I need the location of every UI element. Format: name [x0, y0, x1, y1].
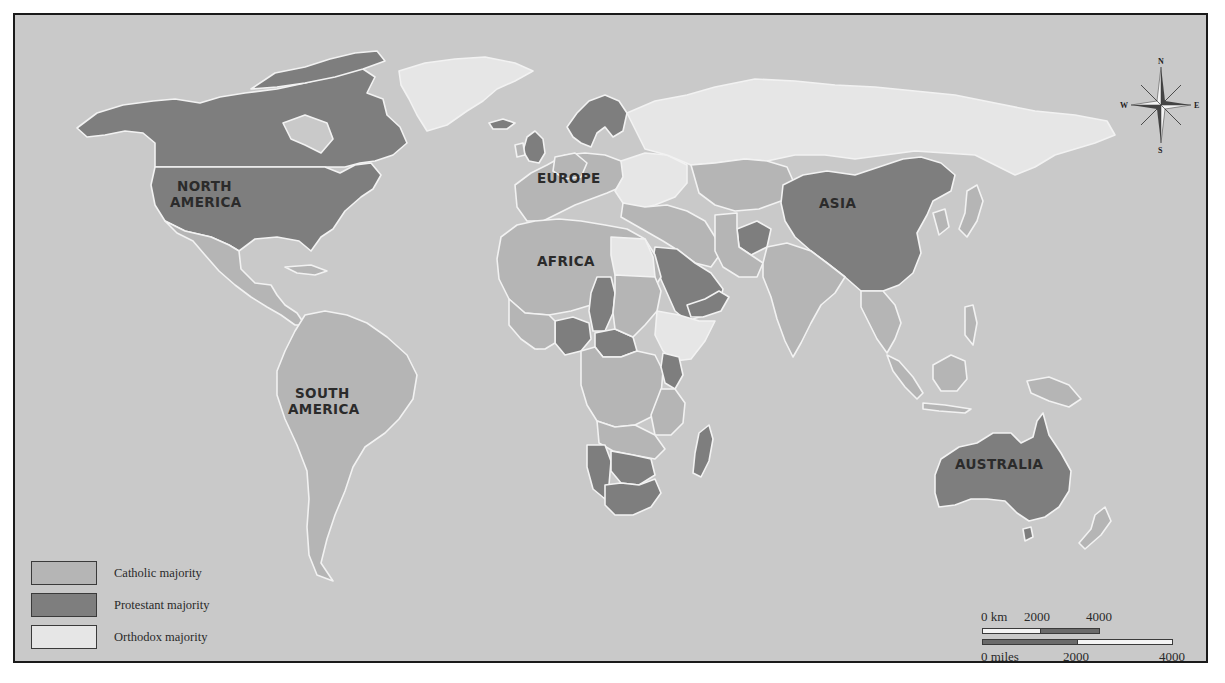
legend-label-protestant: Protestant majority — [114, 598, 209, 613]
region-ireland — [515, 143, 525, 157]
scale-miles-end: 4000 — [1159, 649, 1185, 663]
legend: Catholic majority Protestant majority Or… — [31, 561, 209, 649]
scale-km-label: 0 km — [981, 609, 1007, 625]
legend-label-catholic: Catholic majority — [114, 566, 202, 581]
label-north-america-1: NORTH — [177, 178, 232, 194]
legend-swatch-orthodox — [31, 625, 97, 649]
label-north-america-2: AMERICA — [170, 194, 242, 210]
legend-swatch-protestant — [31, 593, 97, 617]
label-australia: AUSTRALIA — [955, 456, 1044, 472]
scale-bar: 0 km 2000 4000 0 miles 2000 4000 — [981, 609, 1208, 663]
compass-e: E — [1194, 101, 1199, 110]
legend-swatch-catholic — [31, 561, 97, 585]
scale-km-segment-1 — [982, 628, 1041, 634]
compass-w: W — [1120, 101, 1128, 110]
world-map: NORTH AMERICA SOUTH AMERICA EUROPE AFRIC… — [13, 13, 1208, 663]
scale-miles-label: 0 miles — [981, 649, 1019, 663]
scale-miles-segment-2 — [1077, 639, 1173, 645]
label-asia: ASIA — [819, 195, 856, 211]
legend-item-orthodox: Orthodox majority — [31, 625, 209, 649]
scale-miles-mid: 2000 — [1063, 649, 1089, 663]
scale-miles-segment-1 — [982, 639, 1078, 645]
label-africa: AFRICA — [537, 253, 595, 269]
legend-item-protestant: Protestant majority — [31, 593, 209, 617]
scale-km-mid: 2000 — [1024, 609, 1050, 625]
scale-km-segment-2 — [1040, 628, 1100, 634]
label-south-america-1: SOUTH — [295, 385, 350, 401]
label-south-america-2: AMERICA — [288, 401, 360, 417]
label-europe: EUROPE — [537, 170, 601, 186]
legend-item-catholic: Catholic majority — [31, 561, 209, 585]
scale-km-end: 4000 — [1086, 609, 1112, 625]
legend-label-orthodox: Orthodox majority — [114, 630, 207, 645]
compass-s: S — [1158, 146, 1163, 155]
compass-n: N — [1158, 57, 1164, 66]
